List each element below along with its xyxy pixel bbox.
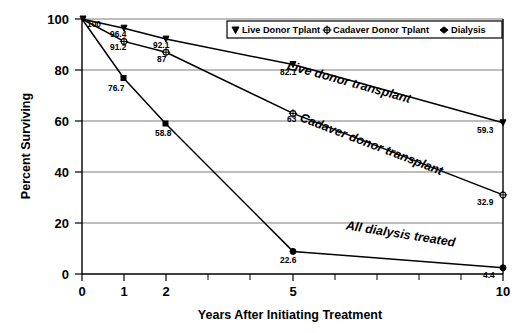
- x-axis-title: Years After Initiating Treatment: [198, 308, 383, 322]
- data-label-live-10: 59.3: [477, 125, 494, 135]
- data-label-live-2: 92.1: [153, 40, 170, 50]
- data-label-cadaver-5: 63: [287, 114, 297, 124]
- y-axis-title: Percent Surviving: [19, 93, 33, 199]
- data-label-dialysis-1: 76.7: [108, 83, 125, 93]
- x-tick-label: 2: [162, 284, 169, 299]
- x-tick-label: 0: [78, 284, 85, 299]
- survival-chart: 100 80 60 40 20 0 0 1 2 5 10: [0, 0, 527, 333]
- y-tick-label: 20: [55, 216, 69, 231]
- y-tick-label: 100: [47, 12, 69, 27]
- y-tick-label: 40: [55, 165, 69, 180]
- data-label-cadaver-1: 91.2: [110, 42, 127, 52]
- legend-label-cadaver-donor-tplant: Cadaver Donor Tplant: [333, 25, 429, 35]
- legend: Live Donor Tplant Cadaver Donor Tplant D…: [227, 21, 502, 38]
- data-label-dialysis-5: 22.6: [280, 255, 297, 265]
- data-point-marker: [121, 76, 126, 81]
- data-point-marker: [500, 265, 506, 271]
- data-label-cadaver-2: 87: [157, 54, 167, 64]
- legend-label-live-donor-tplant: Live Donor Tplant: [242, 25, 320, 35]
- data-point-marker: [163, 121, 168, 126]
- data-label-live-1: 96.4: [110, 29, 127, 39]
- y-tick-label: 0: [62, 267, 69, 282]
- x-tick-label: 10: [496, 284, 510, 299]
- x-tick-label: 5: [289, 284, 296, 299]
- data-label-dialysis-2: 58.8: [155, 128, 172, 138]
- y-tick-label: 80: [55, 63, 69, 78]
- data-label-dialysis-10: 4.4: [483, 270, 495, 280]
- data-label-cadaver-10: 32.9: [477, 197, 494, 207]
- x-tick-label: 1: [120, 284, 127, 299]
- legend-label-dialysis: Dialysis: [451, 25, 486, 35]
- data-label-live-0: 100: [87, 19, 101, 29]
- y-tick-label: 60: [55, 114, 69, 129]
- data-point-marker: [290, 248, 296, 254]
